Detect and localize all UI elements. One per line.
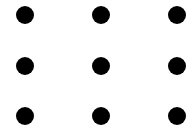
grid-dot [92,6,110,24]
grid-dot [92,57,110,75]
grid-dot [168,57,186,75]
grid-dot [168,107,186,125]
grid-dot [92,107,110,125]
grid-dot [16,57,34,75]
grid-dot [16,107,34,125]
grid-dot [16,6,34,24]
grid-dot [168,6,186,24]
